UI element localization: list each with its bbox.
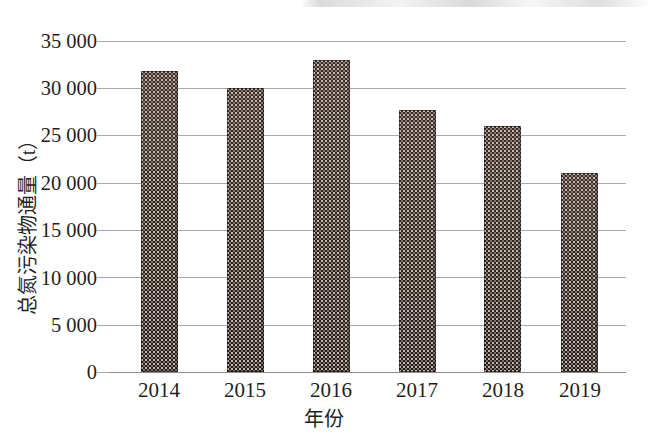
y-tick-label-35000: 35 000	[41, 31, 97, 52]
y-tick-label-15000: 15 000	[41, 220, 97, 241]
y-tick-label-25000: 25 000	[41, 125, 97, 146]
x-tick-label-2014: 2014	[119, 378, 199, 402]
bar-2017[interactable]	[399, 110, 436, 372]
bar-2016[interactable]	[313, 60, 350, 372]
plot-area	[109, 41, 626, 372]
y-tick-label-0: 0	[87, 362, 97, 383]
x-axis-title: 年份	[0, 408, 648, 430]
bar-2015[interactable]	[227, 88, 264, 372]
x-axis-baseline	[109, 372, 626, 373]
bar-2019[interactable]	[561, 173, 598, 372]
bar-chart-figure: 35 000 30 000 25 000 20 000 15 000 10 00…	[0, 0, 648, 445]
x-tick-label-2019: 2019	[540, 378, 620, 402]
y-axis-title: 总氮污染物通量（t）	[14, 0, 42, 445]
y-tick-label-10000: 10 000	[41, 268, 97, 289]
y-tick-label-5000: 5 000	[51, 315, 97, 336]
x-tick-label-2017: 2017	[377, 378, 457, 402]
x-tick-label-2015: 2015	[205, 378, 285, 402]
bar-2014[interactable]	[141, 71, 178, 372]
x-axis-tick-labels: 2014 2015 2016 2017 2018 2019	[109, 378, 626, 408]
x-tick-label-2018: 2018	[463, 378, 543, 402]
x-tick-label-2016: 2016	[291, 378, 371, 402]
bar-2018[interactable]	[484, 126, 521, 372]
y-tick-label-30000: 30 000	[41, 78, 97, 99]
bar-series	[109, 41, 626, 372]
y-tick-label-20000: 20 000	[41, 173, 97, 194]
